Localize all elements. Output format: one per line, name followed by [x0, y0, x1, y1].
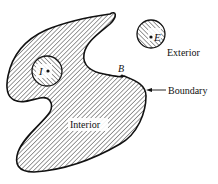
boundary-label: Boundary — [168, 85, 207, 96]
exterior-label: Exterior — [167, 47, 200, 58]
exterior-point-label: E — [153, 31, 161, 43]
boundary-point-dot — [120, 74, 123, 77]
region-blob — [7, 13, 146, 172]
diagram-canvas: I E Exterior B Boundary Interior — [0, 0, 218, 184]
interior-point-dot — [46, 69, 49, 72]
exterior-point-dot — [149, 35, 152, 38]
boundary-point-label: B — [118, 63, 124, 74]
arrowhead-icon — [146, 88, 152, 92]
interior-label: Interior — [70, 119, 101, 130]
